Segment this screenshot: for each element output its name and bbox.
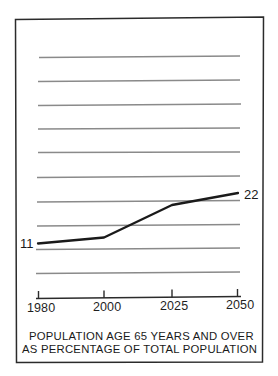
chart-caption: POPULATION AGE 65 YEARS AND OVER AS PERC… [22,330,257,355]
x-tick-label-2025: 2025 [160,299,188,313]
caption-line-2: AS PERCENTAGE OF TOTAL POPULATION [22,343,257,355]
x-tick-label-2050: 2050 [226,298,254,312]
gridline [38,128,240,129]
gridline [38,152,240,153]
population-line-chart: 11 22 1980 2000 2025 2050 POPULATION AGE… [0,0,278,376]
x-tick-label-1980: 1980 [27,301,55,315]
caption-line-1: POPULATION AGE 65 YEARS AND OVER [29,330,254,342]
chart-figure: 11 22 1980 2000 2025 2050 POPULATION AGE… [0,0,278,376]
x-tick-label-2000: 2000 [93,300,121,314]
start-value-label: 11 [20,236,34,251]
end-value-label: 22 [244,187,258,202]
